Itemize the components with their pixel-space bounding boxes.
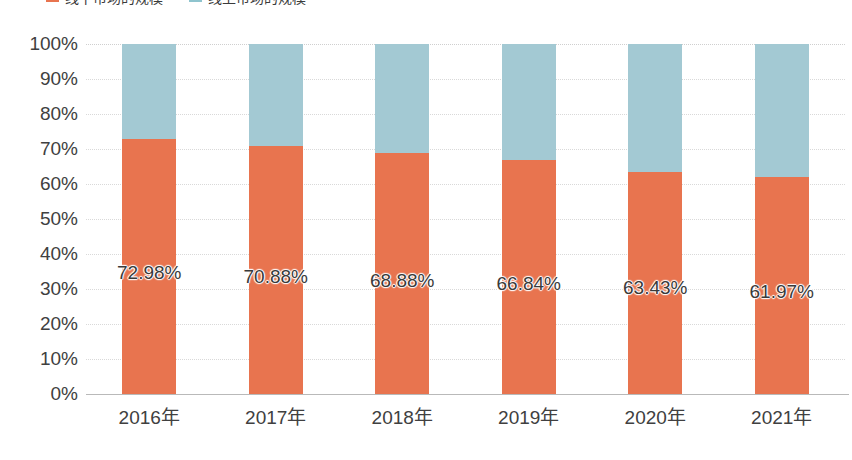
y-axis-tick-label: 50% [0, 208, 78, 230]
x-axis-line [86, 394, 849, 395]
y-axis-tick-label: 100% [0, 33, 78, 55]
bar-data-label: 63.43% [623, 277, 687, 299]
x-axis-tick-label: 2017年 [245, 402, 306, 429]
gridline [86, 219, 845, 220]
bar-segment-online[interactable] [628, 44, 682, 172]
bar-segment-online[interactable] [755, 44, 809, 177]
y-axis-tick-label: 0% [0, 383, 78, 405]
y-axis-tick-label: 60% [0, 173, 78, 195]
gridline [86, 44, 845, 45]
legend-label-online: 线上市场的规模 [208, 0, 306, 5]
y-axis-tick-label: 10% [0, 348, 78, 370]
legend-swatch-online-icon [189, 0, 202, 2]
gridline [86, 149, 845, 150]
bar-group[interactable] [249, 44, 303, 394]
gridline [86, 114, 845, 115]
x-axis-tick-label: 2021年 [751, 402, 812, 429]
x-axis-tick-label: 2018年 [372, 402, 433, 429]
chart-figure: 线下市场的规模 线上市场的规模 100%90%80%70%60%50%40%30… [0, 0, 852, 460]
y-axis-tick-label: 80% [0, 103, 78, 125]
gridline [86, 324, 845, 325]
bar-data-label: 66.84% [497, 273, 561, 295]
bar-segment-online[interactable] [375, 44, 429, 153]
y-axis-tick-label: 20% [0, 313, 78, 335]
y-axis-tick-label: 30% [0, 278, 78, 300]
bar-data-label: 70.88% [244, 266, 308, 288]
bar-group[interactable] [122, 44, 176, 394]
y-axis-tick-labels: 100%90%80%70%60%50%40%30%20%10%0% [0, 44, 78, 394]
bar-group[interactable] [502, 44, 556, 394]
bar-group[interactable] [375, 44, 429, 394]
bar-segment-online[interactable] [122, 44, 176, 139]
legend-label-offline: 线下市场的规模 [65, 0, 163, 5]
gridline [86, 359, 845, 360]
gridline [86, 254, 845, 255]
bar-data-label: 72.98% [117, 262, 181, 284]
bar-group[interactable] [628, 44, 682, 394]
bar-group[interactable] [755, 44, 809, 394]
legend-item-online[interactable]: 线上市场的规模 [189, 0, 306, 5]
y-axis-tick-label: 40% [0, 243, 78, 265]
legend-swatch-offline-icon [46, 0, 59, 2]
x-axis-tick-label: 2019年 [498, 402, 559, 429]
x-axis-tick-label: 2016年 [119, 402, 180, 429]
gridline [86, 289, 845, 290]
y-axis-tick-label: 90% [0, 68, 78, 90]
bar-segment-online[interactable] [249, 44, 303, 146]
gridline [86, 79, 845, 80]
y-axis-tick-label: 70% [0, 138, 78, 160]
x-axis-tick-label: 2020年 [625, 402, 686, 429]
plot-area: 72.98%70.88%68.88%66.84%63.43%61.97% [86, 44, 845, 394]
gridline [86, 184, 845, 185]
bar-segment-online[interactable] [502, 44, 556, 160]
legend-item-offline[interactable]: 线下市场的规模 [46, 0, 163, 5]
chart-legend: 线下市场的规模 线上市场的规模 [46, 0, 306, 7]
bar-data-label: 68.88% [370, 270, 434, 292]
bar-data-label: 61.97% [750, 281, 814, 303]
